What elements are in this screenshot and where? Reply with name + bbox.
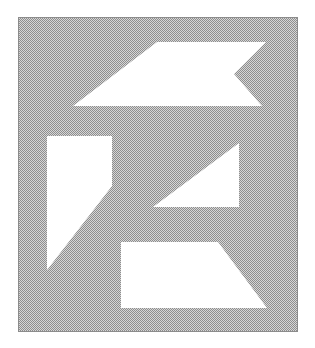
left-truncated-triangle-shape [47, 136, 112, 270]
right-triangle-shape [153, 143, 239, 207]
notched-parallelogram-shape [73, 42, 266, 106]
bottom-trapezoid-shape [121, 242, 267, 308]
diagram-canvas [0, 0, 315, 348]
shapes-layer [0, 0, 315, 348]
